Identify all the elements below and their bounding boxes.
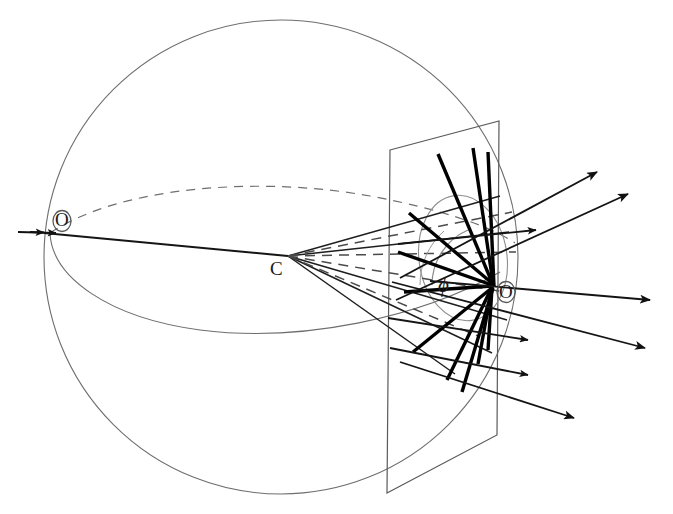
incident-beam xyxy=(18,232,288,256)
figure-canvas: O C ϕ O xyxy=(0,0,673,514)
scattering-diagram xyxy=(0,0,673,514)
label-origin-left: O xyxy=(55,209,69,231)
label-centre-c: C xyxy=(270,258,283,280)
label-origin-right: O xyxy=(499,281,513,303)
sphere-outline xyxy=(44,20,518,494)
equator-far-dashed xyxy=(50,186,515,243)
ray-low-2 xyxy=(400,362,574,418)
heavy-scatter-chords xyxy=(398,148,494,392)
label-angle-phi: ϕ xyxy=(438,273,449,298)
